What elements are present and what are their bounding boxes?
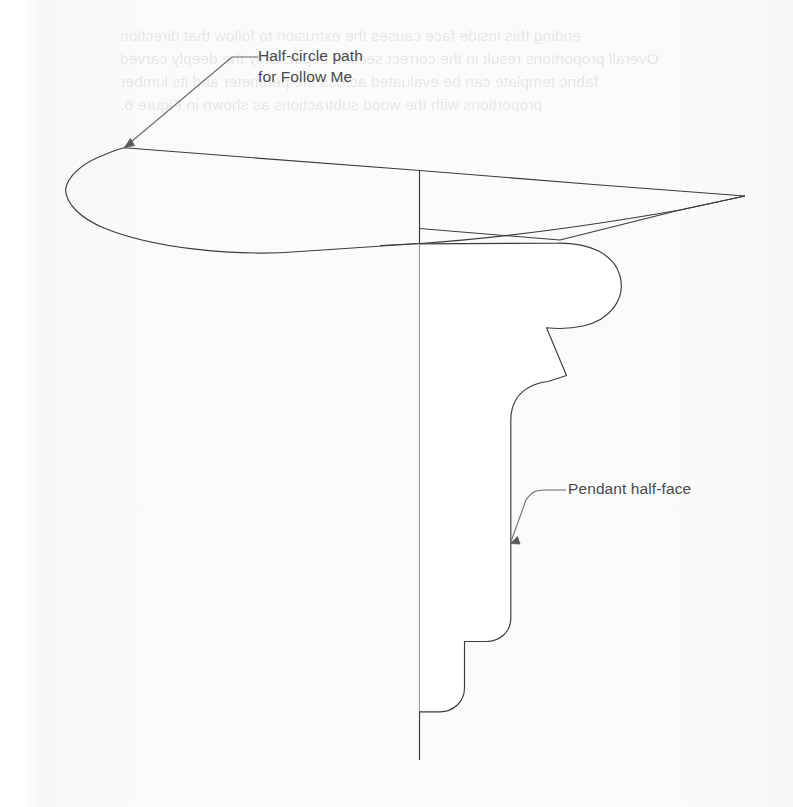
pendant-half-face-leader-line (511, 490, 567, 543)
annotation-label-pendant-half-face: Pendant half-face (568, 479, 691, 500)
half-circle-path-leader-line (125, 57, 259, 148)
pendant-half-face-profile (420, 243, 622, 712)
scanned-book-page: ending this inside face causes the extru… (0, 0, 793, 807)
follow-me-molding-diagram (0, 0, 793, 807)
half-circle-path-upper-edge (66, 148, 746, 196)
annotation-label-half-circle-path: Half-circle path for Follow Me (258, 46, 363, 87)
half-circle-path-lower-edge (66, 190, 746, 253)
half-circle-path-inner-chord (420, 196, 746, 240)
